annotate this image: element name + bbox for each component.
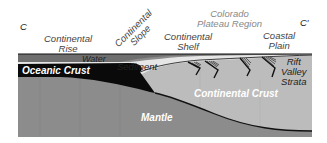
- corner-label-left: C: [20, 22, 27, 32]
- cross-section-diagram: C C′ Continental Rise Continental Slope …: [0, 0, 327, 143]
- label-rift-valley-strata: Rift Valley Strata: [281, 57, 307, 87]
- corner-label-right: C′: [300, 18, 309, 28]
- label-continental-crust: Continental Crust: [194, 89, 278, 99]
- label-continental-shelf: Continental Shelf: [164, 32, 212, 52]
- label-oceanic-crust: Oceanic Crust: [22, 66, 90, 76]
- label-water: Water: [82, 54, 106, 64]
- label-sediment: Sediment: [117, 62, 157, 72]
- label-mantle: Mantle: [141, 113, 173, 123]
- label-coastal-plain: Coastal Plain: [263, 31, 295, 51]
- label-colorado-plateau: Colorado Plateau Region: [197, 9, 262, 29]
- label-continental-rise: Continental Rise: [44, 34, 92, 54]
